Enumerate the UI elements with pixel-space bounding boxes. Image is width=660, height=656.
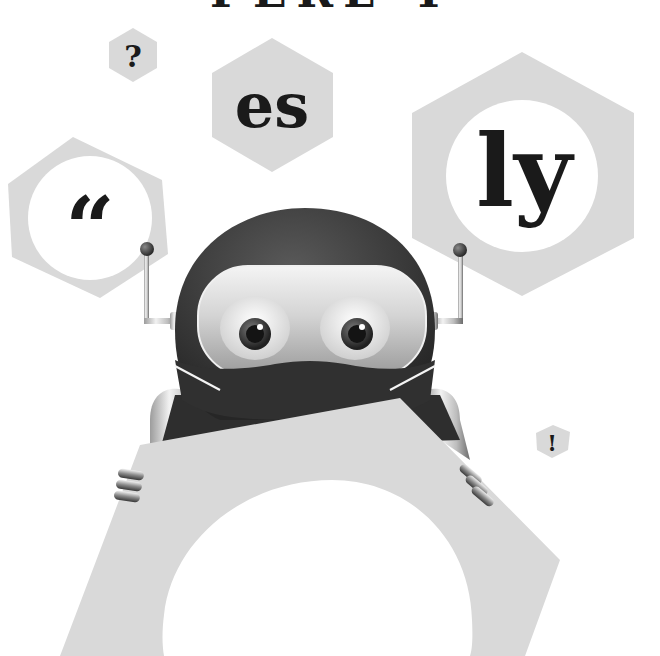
quote-glyph: “ (65, 177, 114, 278)
left-fingers (113, 468, 144, 503)
es-glyph: es (235, 69, 309, 142)
ly-glyph: ly (476, 112, 575, 230)
left-eye (220, 296, 290, 360)
robot-illustration: ? es “ ly ! (0, 0, 660, 656)
right-eye (320, 296, 390, 360)
large-hexagon-sign (60, 398, 560, 656)
ly-hexagon: ly (412, 52, 634, 296)
es-hexagon: es (212, 38, 333, 172)
question-glyph: ? (124, 39, 142, 74)
robot-head (175, 208, 435, 420)
question-hexagon: ? (109, 28, 157, 82)
exclaim-hexagon: ! (536, 425, 570, 458)
exclaim-glyph: ! (547, 430, 557, 456)
